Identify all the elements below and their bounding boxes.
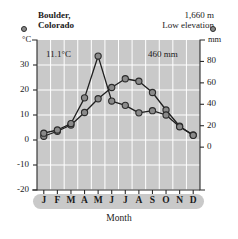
left-axis-tick-label: 30 — [7, 60, 29, 69]
right-axis-tick-label: 20 — [207, 121, 229, 130]
right-axis-tick-label: 40 — [207, 99, 229, 108]
month-label-february: F — [50, 195, 64, 205]
climograph: Boulder, Colorado 1,660 m Low elevation … — [0, 0, 238, 239]
month-label-april: A — [78, 195, 92, 205]
x-axis-title: Month — [0, 213, 238, 223]
right-axis-tick-label: 80 — [207, 56, 229, 65]
month-label-september: S — [145, 195, 159, 205]
month-label-july: J — [118, 195, 132, 205]
average-temperature-label: 11.1°C — [46, 49, 71, 59]
month-label-october: O — [159, 195, 173, 205]
month-label-january: J — [37, 195, 51, 205]
month-label-march: M — [64, 195, 78, 205]
total-precipitation-label: 460 mm — [148, 49, 178, 59]
left-axis-tick-label: 0 — [7, 135, 29, 144]
month-label-june: J — [105, 195, 119, 205]
month-label-november: N — [173, 195, 187, 205]
month-label-december: D — [186, 195, 200, 205]
left-axis-tick-label: -20 — [7, 185, 29, 194]
right-axis-tick-label: 0 — [207, 142, 229, 151]
right-axis-spine — [200, 40, 205, 190]
left-axis-tick-label: -10 — [7, 160, 29, 169]
left-axis-tick-label: 10 — [7, 110, 29, 119]
month-label-august: A — [132, 195, 146, 205]
month-label-may: M — [91, 195, 105, 205]
right-axis-tick-label: 60 — [207, 78, 229, 87]
left-axis-tick-label: 20 — [7, 85, 29, 94]
